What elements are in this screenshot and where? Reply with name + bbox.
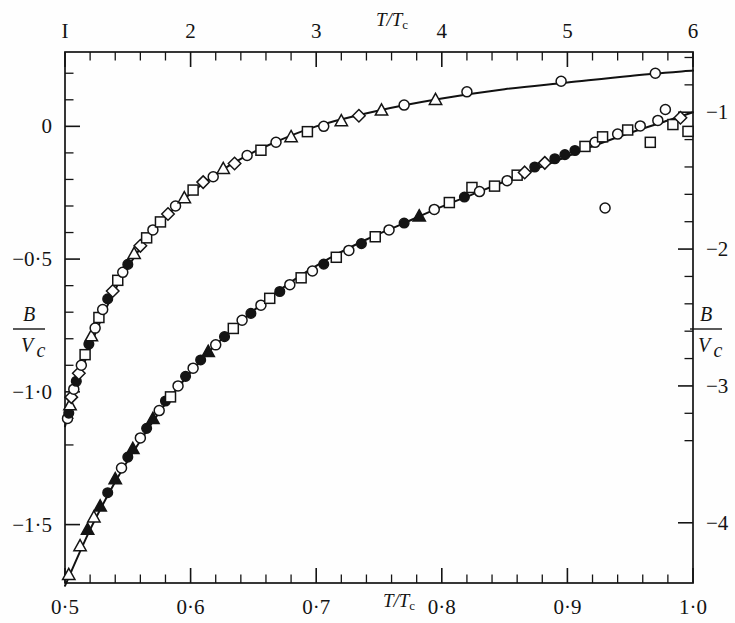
bottom-tick-label-2: 0·7: [302, 595, 330, 619]
left-tick-label-3: −1·5: [12, 513, 52, 537]
virial-coefficient-chart: I234560·50·60·70·80·91·00−0·5−1·0−1·5−1−…: [0, 0, 735, 623]
top-tick-label-0: I: [62, 19, 69, 43]
data-point-circle-open: [90, 323, 100, 333]
bottom-tick-label-5: 1·0: [679, 595, 707, 619]
data-point-square-open: [155, 217, 165, 227]
data-point-circle-open: [344, 245, 354, 255]
data-point-square-open: [265, 293, 275, 303]
data-point-circle-filled: [246, 309, 256, 319]
data-point-circle-open: [502, 176, 512, 186]
data-point-circle-open: [271, 137, 281, 147]
data-point-circle-open: [556, 76, 566, 86]
data-point-circle-open: [211, 340, 221, 350]
data-point-circle-filled: [570, 146, 580, 156]
data-point-square-open: [228, 323, 238, 333]
data-point-circle-filled: [399, 218, 409, 228]
top-tick-label-4: 5: [562, 19, 573, 43]
data-point-circle-open: [650, 68, 660, 78]
data-point-circle-open: [613, 129, 623, 139]
data-point-square-open: [580, 141, 590, 151]
data-point-square-open: [296, 273, 306, 283]
chart-svg: I234560·50·60·70·80·91·00−0·5−1·0−1·5−1−…: [0, 0, 735, 623]
data-point-circle-open: [98, 305, 108, 315]
data-point-square-open: [683, 126, 693, 136]
bottom-tick-label-3: 0·8: [428, 595, 456, 619]
data-point-square-open: [188, 185, 198, 195]
data-point-circle-open: [154, 406, 164, 416]
left-tick-label-1: −0·5: [12, 247, 52, 271]
data-point-circle-open: [653, 115, 663, 125]
right-axis-title-numerator: B: [700, 303, 712, 325]
right-tick-label-0: −1: [706, 100, 728, 124]
top-tick-label-2: 3: [311, 19, 322, 43]
bottom-tick-label-0: 0·5: [51, 595, 79, 619]
data-point-square-open: [256, 145, 266, 155]
data-point-circle-open: [188, 363, 198, 373]
data-point-circle-open: [307, 266, 317, 276]
top-tick-label-1: 2: [185, 19, 196, 43]
data-point-circle-open: [117, 463, 127, 473]
data-point-square-open: [598, 132, 608, 142]
data-point-square-open: [80, 350, 90, 360]
data-point-circle-filled: [142, 424, 152, 434]
data-point-circle-filled: [275, 287, 285, 297]
top-tick-label-3: 4: [437, 19, 448, 43]
bottom-tick-label-4: 0·9: [553, 595, 581, 619]
data-point-circle-open: [600, 203, 610, 213]
data-point-circle-open: [173, 381, 183, 391]
data-point-circle-filled: [560, 150, 570, 160]
left-axis-title-subscript: c: [37, 339, 46, 361]
data-point-circle-filled: [181, 372, 191, 382]
data-point-square-open: [331, 252, 341, 262]
data-point-circle-open: [76, 360, 86, 370]
data-point-circle-open: [384, 225, 394, 235]
data-point-square-open: [623, 125, 633, 135]
data-point-circle-filled: [103, 488, 113, 498]
data-point-circle-open: [285, 280, 295, 290]
data-point-circle-open: [462, 87, 472, 97]
data-point-circle-open: [237, 315, 247, 325]
data-point-square-open: [490, 181, 500, 191]
right-tick-label-1: −2: [706, 237, 728, 261]
data-point-circle-filled: [319, 259, 329, 269]
left-axis-title-numerator: B: [23, 303, 35, 325]
data-point-circle-filled: [530, 162, 540, 172]
data-point-circle-open: [635, 121, 645, 131]
data-point-circle-open: [242, 151, 252, 161]
data-point-circle-filled: [460, 192, 470, 202]
left-tick-label-2: −1·0: [12, 380, 52, 404]
right-tick-label-3: −4: [706, 511, 729, 535]
top-tick-label-5: 6: [688, 19, 699, 43]
data-point-circle-filled: [123, 260, 133, 270]
data-point-circle-filled: [550, 154, 560, 164]
data-point-square-open: [645, 137, 655, 147]
bottom-tick-label-1: 0·6: [177, 595, 205, 619]
data-point-circle-open: [319, 121, 329, 131]
data-point-circle-filled: [357, 239, 367, 249]
chart-background: [0, 0, 735, 623]
data-point-square-open: [444, 198, 454, 208]
data-point-circle-open: [135, 433, 145, 443]
data-point-square-open: [302, 127, 312, 137]
left-tick-label-0: 0: [42, 114, 53, 138]
data-point-circle-open: [660, 104, 670, 114]
data-point-square-open: [370, 232, 380, 242]
data-point-square-open: [668, 120, 678, 130]
data-point-circle-open: [429, 204, 439, 214]
data-point-circle-open: [474, 187, 484, 197]
data-point-circle-open: [399, 100, 409, 110]
data-point-square-open: [166, 392, 176, 402]
right-tick-label-2: −3: [706, 374, 728, 398]
right-axis-title-subscript: c: [714, 339, 723, 361]
